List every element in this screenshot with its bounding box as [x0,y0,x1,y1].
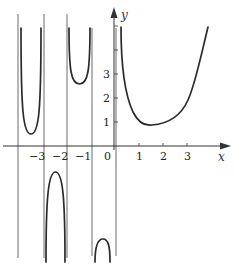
function-graph: −3 −2 −1 0 1 2 3 x 1 2 3 y [0,0,235,268]
x-axis-label: x [218,150,225,164]
asymptotes [18,14,116,258]
x-tick-label-minus-2: −2 [52,150,68,163]
curve-branch-1 [21,28,41,134]
x-tick-label-0: 0 [104,150,111,163]
x-tick-label-1: 1 [136,150,143,163]
y-axis-label: y [120,8,128,22]
y-axis [111,7,119,150]
curve-branch-3 [69,28,90,84]
y-tick-label-1: 1 [103,116,110,129]
y-tick-label-3: 3 [103,68,110,81]
x-axis-arrow-icon [220,143,231,150]
x-tick-label-2: 2 [160,150,167,163]
curve-branch-4 [95,239,110,262]
x-tick-label-minus-1: −1 [75,150,91,163]
y-tick-label-2: 2 [103,92,110,105]
curve-branch-2 [46,172,65,262]
x-tick-label-minus-3: −3 [29,150,45,163]
y-axis-arrow-icon [111,7,118,18]
curve-branch-5 [121,27,208,125]
x-tick-label-3: 3 [184,150,191,163]
x-axis [3,143,231,150]
